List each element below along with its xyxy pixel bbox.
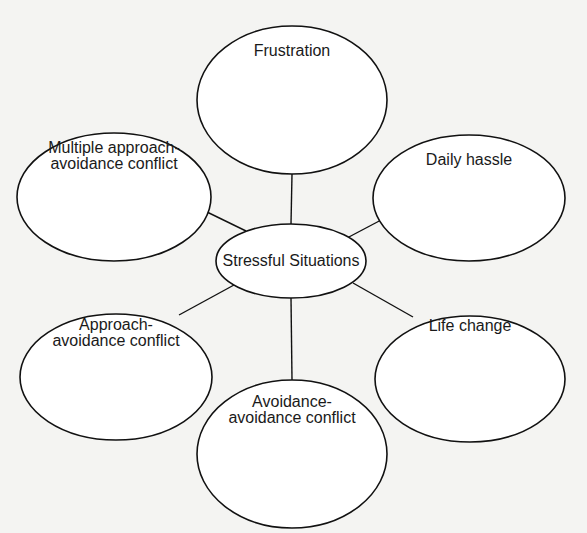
connector-approach-avoidance xyxy=(179,285,234,315)
connector-life-change xyxy=(353,283,413,317)
connector-avoidance-avoidance xyxy=(291,298,292,380)
node-label-frustration: Frustration xyxy=(254,43,330,59)
connector-frustration xyxy=(291,174,292,224)
node-label-daily-hassle: Daily hassle xyxy=(426,152,512,168)
connector-daily-hassle xyxy=(347,219,383,238)
connector-multiple-approach-avoidance xyxy=(207,212,246,231)
node-label-multiple-approach-avoidance-conflict: Multiple approach- avoidance conflict xyxy=(48,140,180,172)
node-label-avoidance-avoidance-conflict: Avoidance- avoidance conflict xyxy=(228,394,355,426)
node-label-life-change: Life change xyxy=(429,318,512,334)
node-ellipses xyxy=(17,26,565,528)
node-label-approach-avoidance-conflict: Approach- avoidance conflict xyxy=(52,317,179,349)
center-node-label: Stressful Situations xyxy=(223,253,360,269)
node-ellipse-life-change xyxy=(375,316,565,442)
